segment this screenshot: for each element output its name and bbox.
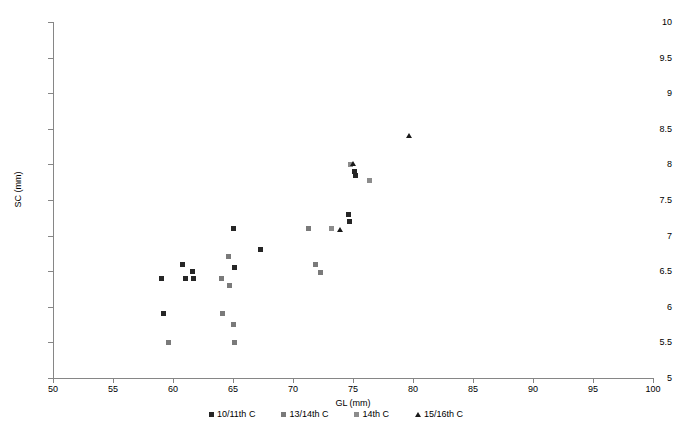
- x-tick-label: 85: [453, 385, 493, 394]
- legend-item[interactable]: 10/11th C: [209, 410, 255, 419]
- y-axis-title: SC (mm): [14, 150, 23, 230]
- y-tick-label: 5: [628, 374, 672, 383]
- x-tick-label: 60: [153, 385, 193, 394]
- y-tick-label: 9.5: [628, 54, 672, 63]
- legend-square-icon: [354, 412, 359, 417]
- x-tick-label: 70: [273, 385, 313, 394]
- x-tick-mark: [233, 379, 234, 383]
- data-point: [346, 212, 351, 217]
- data-point: [191, 276, 196, 281]
- y-tick-label: 9: [628, 89, 672, 98]
- x-tick-mark: [413, 379, 414, 383]
- legend-item[interactable]: 13/14th C: [281, 410, 328, 419]
- y-tick-mark: [48, 22, 53, 23]
- data-point: [190, 269, 195, 274]
- y-tick-mark: [48, 200, 53, 201]
- y-tick-label: 5.5: [628, 338, 672, 347]
- x-tick-label: 55: [93, 385, 133, 394]
- x-tick-mark: [353, 379, 354, 383]
- data-point: [231, 226, 236, 231]
- data-point: [220, 311, 225, 316]
- data-point: [232, 265, 237, 270]
- data-point: [219, 276, 224, 281]
- x-tick-label: 75: [333, 385, 373, 394]
- data-point: [337, 227, 343, 232]
- legend-item-label: 10/11th C: [217, 410, 255, 419]
- x-tick-label: 95: [573, 385, 613, 394]
- legend-triangle-icon: [415, 412, 421, 417]
- data-point: [367, 178, 372, 183]
- legend-item-label: 14th C: [362, 410, 389, 419]
- data-point: [232, 340, 237, 345]
- chart-legend: 10/11th C13/14th C14th C15/16th C: [0, 410, 672, 419]
- x-tick-label: 90: [513, 385, 553, 394]
- y-tick-label: 8.5: [628, 125, 672, 134]
- legend-item[interactable]: 14th C: [354, 410, 389, 419]
- x-tick-label: 65: [213, 385, 253, 394]
- legend-item-label: 13/14th C: [289, 410, 328, 419]
- data-point: [231, 322, 236, 327]
- x-tick-mark: [53, 379, 54, 383]
- y-tick-mark: [48, 129, 53, 130]
- data-point: [313, 262, 318, 267]
- data-point: [258, 247, 263, 252]
- x-tick-mark: [293, 379, 294, 383]
- x-tick-label: 100: [633, 385, 673, 394]
- x-tick-mark: [653, 379, 654, 383]
- y-tick-mark: [48, 342, 53, 343]
- legend-item-label: 15/16th C: [424, 410, 463, 419]
- data-point: [306, 226, 311, 231]
- x-tick-mark: [113, 379, 114, 383]
- data-point: [406, 133, 412, 138]
- data-point: [226, 254, 231, 259]
- data-point: [227, 283, 232, 288]
- data-point: [161, 311, 166, 316]
- x-tick-mark: [473, 379, 474, 383]
- legend-square-icon: [209, 412, 214, 417]
- x-axis-title: GL (mm): [313, 399, 393, 408]
- data-point: [159, 276, 164, 281]
- data-point: [183, 276, 188, 281]
- y-tick-mark: [48, 58, 53, 59]
- y-tick-label: 6.5: [628, 267, 672, 276]
- y-tick-label: 7.5: [628, 196, 672, 205]
- y-tick-mark: [48, 93, 53, 94]
- data-point: [318, 270, 323, 275]
- y-tick-label: 7: [628, 232, 672, 241]
- x-tick-mark: [173, 379, 174, 383]
- y-tick-mark: [48, 164, 53, 165]
- data-point: [350, 161, 356, 166]
- x-tick-label: 80: [393, 385, 433, 394]
- y-tick-label: 6: [628, 303, 672, 312]
- data-point: [166, 340, 171, 345]
- x-tick-label: 50: [33, 385, 73, 394]
- data-point: [180, 262, 185, 267]
- y-tick-mark: [48, 271, 53, 272]
- data-point: [329, 226, 334, 231]
- y-axis-line: [53, 22, 54, 379]
- y-tick-label: 10: [628, 18, 672, 27]
- y-tick-mark: [48, 236, 53, 237]
- data-point: [353, 173, 358, 178]
- x-tick-mark: [593, 379, 594, 383]
- y-tick-label: 8: [628, 160, 672, 169]
- y-tick-mark: [48, 307, 53, 308]
- data-point: [347, 219, 352, 224]
- legend-square-icon: [281, 412, 286, 417]
- legend-item[interactable]: 15/16th C: [415, 410, 463, 419]
- x-tick-mark: [533, 379, 534, 383]
